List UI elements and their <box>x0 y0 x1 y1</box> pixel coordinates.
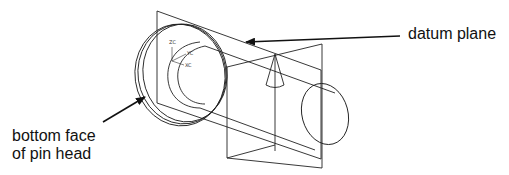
bottom-face-label: bottom face of pin head <box>12 127 96 163</box>
bottom-face-label-line1: bottom face <box>12 127 96 145</box>
datum-plane-arrow <box>246 36 400 42</box>
datum-plane-label: datum plane <box>408 25 496 43</box>
csys-yc-label: YC <box>186 50 194 56</box>
bottom-face-arrow <box>103 97 145 122</box>
csys-zc-label: ZC <box>169 39 176 45</box>
csys-xc-label: XC <box>185 62 192 68</box>
datum-plane <box>157 11 322 168</box>
bottom-face-label-line2: of pin head <box>12 145 96 163</box>
